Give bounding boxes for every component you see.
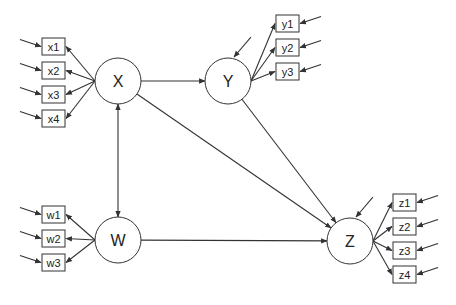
disturbance-z: [356, 197, 373, 217]
loading-w2: [66, 239, 95, 241]
indicator-label: y3: [282, 66, 294, 78]
latent-x: X: [95, 58, 141, 104]
indicator-label: y2: [282, 42, 294, 54]
error-w2: [20, 232, 41, 239]
indicator-z4: z4: [393, 266, 416, 283]
indicator-z2: z2: [393, 218, 416, 235]
indicator-label: z2: [399, 221, 411, 233]
indicator-label: y1: [282, 18, 294, 30]
indicator-x1: x1: [42, 38, 65, 55]
loading-x4: [66, 81, 95, 119]
latent-z: Z: [327, 218, 373, 264]
latent-label: Y: [223, 73, 234, 90]
error-y3: [300, 65, 321, 72]
nodes: x1x2x3x4y1y2y3w1w2w3z1z2z3z4XYWZ: [42, 15, 416, 283]
error-x2: [20, 64, 41, 71]
path-x-z: [137, 94, 331, 228]
error-w3: [20, 256, 41, 263]
indicator-label: z3: [399, 245, 411, 257]
indicator-label: x3: [48, 89, 60, 101]
edges: [20, 17, 438, 275]
indicator-y3: y3: [276, 63, 299, 80]
indicator-label: z1: [399, 197, 411, 209]
latent-label: X: [113, 73, 124, 90]
error-z3: [417, 244, 438, 251]
latent-label: W: [110, 232, 126, 249]
indicator-label: w3: [45, 257, 60, 269]
error-z1: [417, 196, 438, 203]
indicator-label: w2: [45, 233, 60, 245]
error-x3: [20, 88, 41, 95]
sem-diagram: x1x2x3x4y1y2y3w1w2w3z1z2z3z4XYWZ: [0, 0, 456, 305]
disturbance-y: [234, 37, 251, 57]
latent-label: Z: [345, 233, 355, 250]
error-z4: [417, 268, 438, 275]
path-y-z: [242, 99, 336, 222]
indicator-z3: z3: [393, 242, 416, 259]
indicator-x3: x3: [42, 86, 65, 103]
latent-w: W: [95, 217, 141, 263]
indicator-label: z4: [399, 269, 411, 281]
error-x4: [20, 112, 41, 119]
indicator-w1: w1: [42, 206, 65, 223]
loading-z1: [373, 203, 392, 242]
loading-z2: [373, 227, 392, 242]
error-y2: [300, 41, 321, 48]
error-y1: [300, 17, 321, 24]
indicator-label: x4: [48, 113, 60, 125]
error-w1: [20, 208, 41, 215]
error-x1: [20, 40, 41, 47]
loading-w3: [66, 240, 95, 263]
loading-x3: [66, 81, 95, 95]
indicator-w2: w2: [42, 230, 65, 247]
indicator-label: x2: [48, 65, 60, 77]
indicator-w3: w3: [42, 254, 65, 271]
indicator-z1: z1: [393, 194, 416, 211]
indicator-y1: y1: [276, 15, 299, 32]
latent-y: Y: [205, 58, 251, 104]
path-w-z: [141, 240, 327, 241]
indicator-x2: x2: [42, 62, 65, 79]
indicator-x4: x4: [42, 110, 65, 127]
indicator-y2: y2: [276, 39, 299, 56]
indicator-label: w1: [45, 209, 60, 221]
error-z2: [417, 220, 438, 227]
loading-w1: [66, 215, 95, 241]
indicator-label: x1: [48, 41, 60, 53]
